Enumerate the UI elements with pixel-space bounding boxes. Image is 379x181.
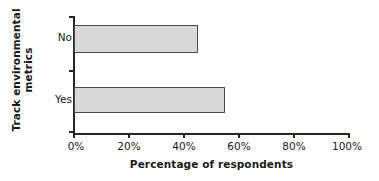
x-axis-tick-100 bbox=[348, 133, 350, 138]
x-axis-tick-40 bbox=[183, 133, 185, 138]
y-axis-tick-top bbox=[69, 16, 74, 18]
x-tick-label-100: 100% bbox=[332, 140, 362, 152]
bar-no bbox=[74, 25, 198, 53]
x-axis-title: Percentage of respondents bbox=[74, 158, 349, 170]
x-axis-tick-60 bbox=[238, 133, 240, 138]
x-tick-label-60: 60% bbox=[227, 140, 250, 152]
y-axis-title: Track environmental metrics bbox=[4, 8, 40, 133]
x-tick-label-20: 20% bbox=[117, 140, 140, 152]
x-tick-label-80: 80% bbox=[282, 140, 305, 152]
x-axis-tick-20 bbox=[128, 133, 130, 138]
y-tick-label-no: No bbox=[28, 31, 72, 43]
y-axis-tick-middle bbox=[69, 70, 74, 72]
y-axis-title-line-2: metrics bbox=[22, 47, 35, 92]
x-tick-label-0: 0% bbox=[68, 140, 85, 152]
x-axis-tick-80 bbox=[293, 133, 295, 138]
bar-yes bbox=[74, 87, 225, 113]
x-axis-tick-0 bbox=[73, 133, 75, 138]
y-axis-title-line-1: Track environmental bbox=[9, 8, 22, 131]
x-axis-line bbox=[73, 133, 349, 135]
plot-area: 0% 20% 40% 60% 80% 100% bbox=[74, 16, 349, 133]
bar-chart: Track environmental metrics No Yes 0% 20… bbox=[0, 0, 379, 181]
x-tick-label-40: 40% bbox=[172, 140, 195, 152]
y-tick-label-yes: Yes bbox=[28, 93, 72, 105]
